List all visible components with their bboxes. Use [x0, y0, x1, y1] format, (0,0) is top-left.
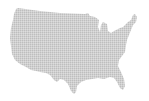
dotted-us-map: [0, 0, 149, 101]
us-map-graphic: [0, 0, 149, 101]
